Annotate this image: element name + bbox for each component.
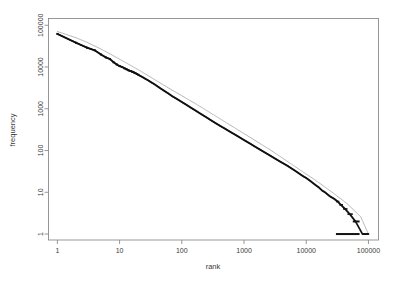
- y-tick-label: 1: [37, 232, 44, 236]
- x-tick-label: 100: [176, 247, 188, 254]
- x-tick-label: 100000: [357, 247, 380, 254]
- figure-background: [0, 0, 394, 281]
- data-point-head: [128, 69, 130, 71]
- x-tick-label: 10: [116, 247, 124, 254]
- data-point-head: [94, 49, 96, 51]
- data-point-head: [75, 42, 77, 44]
- data-point-head: [126, 68, 128, 70]
- zipf-rank-frequency-plot: 110100100010000100000 110100100010000100…: [0, 0, 394, 281]
- data-point-head: [121, 66, 123, 68]
- y-tick-label: 1000: [37, 101, 44, 117]
- y-tick-label: 100000: [37, 13, 44, 36]
- data-point-head: [124, 67, 126, 69]
- data-point: [368, 233, 370, 235]
- data-point-head: [100, 53, 102, 55]
- plot-canvas: 110100100010000100000 110100100010000100…: [0, 0, 394, 281]
- data-point-head: [137, 74, 139, 76]
- data-point-head: [105, 56, 107, 58]
- x-tick-label: 1000: [236, 247, 252, 254]
- x-tick-label: 10000: [297, 247, 317, 254]
- data-point-head: [109, 58, 111, 60]
- x-axis-title: rank: [206, 262, 221, 271]
- y-tick-label: 10: [37, 188, 44, 196]
- data-point-head: [56, 33, 58, 35]
- data-point-head: [86, 47, 88, 49]
- data-point-head: [130, 70, 132, 72]
- y-tick-label: 100: [37, 145, 44, 157]
- data-point-head: [116, 63, 118, 65]
- data-point-head: [119, 65, 121, 67]
- y-axis-title: frequency: [8, 113, 17, 146]
- data-point-head: [113, 61, 115, 63]
- y-tick-label: 10000: [37, 57, 44, 77]
- x-tick-label: 1: [55, 247, 59, 254]
